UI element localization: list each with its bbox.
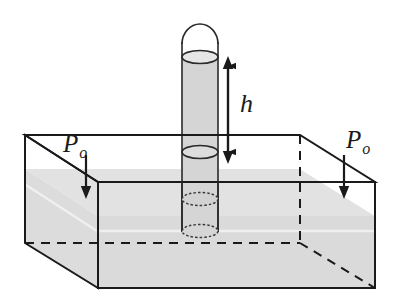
- diagram-canvas: h Po Po: [0, 0, 402, 301]
- pressure-right-label: Po: [345, 126, 370, 157]
- liquid-front-face: [98, 216, 375, 288]
- pressure-right-subscript: o: [362, 140, 370, 157]
- tube-meniscus-ellipse: [182, 51, 218, 64]
- pressure-left-symbol: P: [62, 130, 78, 157]
- tube-ellipse-at-top-face: [182, 146, 218, 159]
- pressure-right-symbol: P: [345, 126, 361, 153]
- tube-bottom-opening-ellipse: [182, 225, 218, 238]
- pressure-left-subscript: o: [79, 144, 87, 161]
- height-arrow-group: [223, 56, 233, 164]
- capillary-diagram-figure: h Po Po: [0, 0, 402, 301]
- height-label: h: [240, 89, 253, 118]
- tube-ellipse-at-liquid-level: [182, 193, 218, 206]
